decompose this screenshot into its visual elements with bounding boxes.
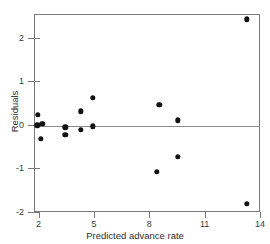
x-axis-tick [149,212,150,218]
y-axis-tick-label: 0 [19,120,24,130]
y-axis-tick-inner [34,38,40,39]
x-axis-tick [260,212,261,218]
x-axis-tick [205,212,206,218]
x-axis-tick-label: 14 [255,219,265,229]
x-axis-tick-label: 5 [91,219,96,229]
x-axis-tick-label: 11 [200,219,209,229]
x-axis-tick-label: 2 [36,219,41,229]
zero-reference-line [34,126,260,127]
y-axis-tick-label: 1 [19,76,24,86]
x-axis-tick [39,212,40,218]
x-axis-tick-label: 8 [147,219,152,229]
plot-area-frame [34,14,260,212]
y-axis-tick-label: -2 [16,207,24,217]
x-axis-tick [94,212,95,218]
y-axis-tick-label: 2 [19,33,24,43]
y-axis-title: Residuals [9,72,20,152]
y-axis-tick-inner [34,168,40,169]
residual-scatter-figure: 210-1-2 2581114 Residuals Predicted adva… [0,0,270,244]
x-axis-title: Predicted advance rate [0,230,270,241]
y-axis-tick-inner [34,81,40,82]
y-axis-tick-label: -1 [16,163,24,173]
